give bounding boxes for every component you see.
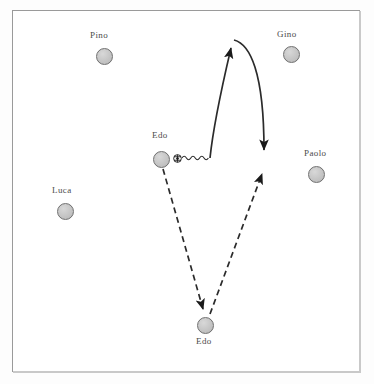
- player-marker-edo-bottom[interactable]: [197, 317, 214, 334]
- player-label-edo-top: Edo: [152, 130, 168, 140]
- player-marker-gino[interactable]: [283, 46, 300, 63]
- player-marker-pino[interactable]: [96, 48, 113, 65]
- player-marker-luca[interactable]: [57, 203, 74, 220]
- player-marker-paolo[interactable]: [308, 166, 325, 183]
- player-label-pino: Pino: [90, 30, 108, 40]
- player-marker-edo-top[interactable]: [153, 151, 170, 168]
- player-label-luca: Luca: [52, 185, 72, 195]
- player-label-paolo: Paolo: [304, 148, 327, 158]
- player-label-edo-bottom: Edo: [196, 336, 212, 346]
- player-label-gino: Gino: [277, 29, 297, 39]
- tactics-diagram: Pino Gino Edo Paolo Luca Edo: [0, 0, 374, 384]
- soccer-ball-icon: [173, 154, 182, 163]
